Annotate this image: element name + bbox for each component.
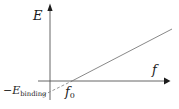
binding-energy-sign: −: [3, 84, 12, 97]
energy-axis-arrowhead: [47, 4, 52, 12]
binding-energy-subscript: binding: [20, 90, 46, 98]
frequency-axis-arrowhead: [164, 78, 171, 85]
threshold-frequency-subscript: 0: [70, 91, 75, 100]
threshold-frequency-label: f0: [65, 85, 75, 98]
frequency-axis-label: f: [152, 63, 157, 76]
energy-axis-label: E: [33, 9, 43, 22]
physics-diagram-figure: E f f0 −Ebinding: [0, 0, 179, 109]
binding-energy-label: −Ebinding: [3, 85, 46, 96]
